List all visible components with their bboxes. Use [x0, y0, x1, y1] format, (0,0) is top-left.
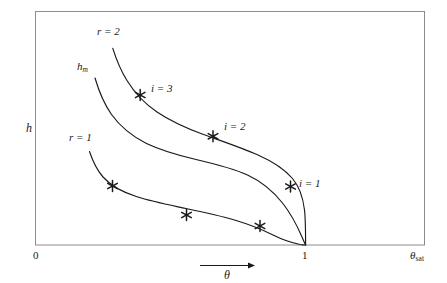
- marker-label-i1: i = 1: [299, 178, 320, 189]
- curve-label-hm: hm: [77, 61, 88, 73]
- plot-canvas: [0, 0, 447, 283]
- curve-r1: [90, 152, 306, 246]
- curve-hm: [95, 78, 306, 245]
- figure-container: h 0 1 θsat θ r = 2 hm r = 1 i = 3 i = 2 …: [0, 0, 447, 283]
- marker-lower-2: [182, 210, 192, 221]
- marker-i1: [286, 181, 296, 192]
- sat-subscript: sat: [415, 254, 424, 263]
- x-axis-label: θ: [224, 269, 230, 281]
- x-tick-one: 1: [302, 250, 308, 261]
- x-axis-saturation-label: θsat: [410, 250, 424, 262]
- marker-i3: [135, 90, 145, 101]
- curve-label-r1: r = 1: [69, 132, 92, 143]
- y-axis-label: h: [26, 122, 32, 134]
- curve-r2: [113, 48, 306, 245]
- x-tick-zero: 0: [33, 250, 39, 261]
- hm-subscript: m: [83, 65, 88, 74]
- marker-label-i3: i = 3: [151, 83, 172, 94]
- marker-label-i2: i = 2: [224, 121, 245, 132]
- curve-label-r2: r = 2: [97, 26, 120, 37]
